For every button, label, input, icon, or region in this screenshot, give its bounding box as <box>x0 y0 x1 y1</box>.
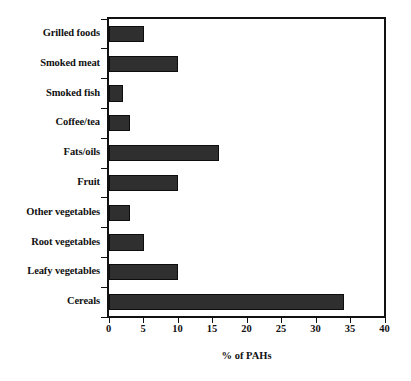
plot-area-frame <box>107 17 386 318</box>
bar <box>109 145 219 161</box>
bar-row <box>109 115 384 131</box>
bar-row <box>109 264 384 280</box>
x-axis-tick-label: 35 <box>345 324 356 335</box>
bar <box>109 115 130 131</box>
bar-row <box>109 56 384 72</box>
bar <box>109 175 178 191</box>
category-label: Root vegetables <box>31 237 100 248</box>
category-label: Other vegetables <box>26 207 100 218</box>
bar <box>109 205 130 221</box>
category-tick <box>101 19 107 20</box>
bar <box>109 234 144 250</box>
category-label: Fruit <box>77 177 100 188</box>
category-tick <box>101 227 107 228</box>
category-tick <box>101 197 107 198</box>
category-tick <box>101 78 107 79</box>
bars-layer <box>109 19 384 316</box>
x-axis-tick-label: 0 <box>106 324 111 335</box>
x-axis-tick-label: 25 <box>276 324 287 335</box>
category-label: Cereals <box>67 296 100 307</box>
category-tick <box>101 257 107 258</box>
category-tick <box>101 138 107 139</box>
bar <box>109 56 178 72</box>
category-label: Coffee/tea <box>56 117 100 128</box>
bar-row <box>109 145 384 161</box>
x-axis-tick-label: 20 <box>241 324 252 335</box>
bar-row <box>109 85 384 101</box>
bar <box>109 294 344 310</box>
x-axis-title: % of PAHs <box>107 350 386 361</box>
x-axis-tick-label: 30 <box>310 324 321 335</box>
bar-row <box>109 205 384 221</box>
category-tick <box>101 108 107 109</box>
category-label: Smoked fish <box>46 88 100 99</box>
bar <box>109 26 144 42</box>
category-label: Leafy vegetables <box>27 266 100 277</box>
category-tick <box>101 48 107 49</box>
bar <box>109 85 123 101</box>
x-axis-tick-label: 15 <box>207 324 218 335</box>
category-label: Grilled foods <box>43 28 100 39</box>
category-label: Fats/oils <box>64 147 100 158</box>
category-tick <box>101 317 107 318</box>
bar-row <box>109 26 384 42</box>
category-tick <box>101 287 107 288</box>
bar <box>109 264 178 280</box>
x-axis-tick-label: 40 <box>379 324 390 335</box>
category-label: Smoked meat <box>40 58 100 69</box>
x-axis-tick-label: 5 <box>140 324 145 335</box>
category-tick <box>101 168 107 169</box>
bar-row <box>109 175 384 191</box>
pah-bar-chart-figure: Grilled foodsSmoked meatSmoked fishCoffe… <box>0 0 411 381</box>
bar-row <box>109 294 384 310</box>
bar-row <box>109 234 384 250</box>
x-axis-tick-label: 10 <box>172 324 183 335</box>
